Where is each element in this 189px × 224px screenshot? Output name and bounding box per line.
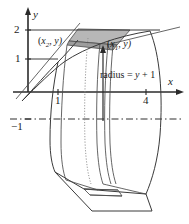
base-outline-lower (55, 172, 152, 211)
solid-of-revolution-figure: y x 2 1 1 4 −1 (x2, y) (x1, y) radius = … (0, 0, 189, 224)
inner-point-label: (x2, y) (38, 36, 62, 49)
outer-point-label: (x1, y) (107, 39, 131, 52)
y-tick-label-2: 2 (14, 24, 20, 35)
solid-outer-left-edge (50, 62, 58, 172)
revolution-axis-label: −1 (11, 121, 23, 132)
shell-wall-d (110, 45, 116, 184)
radius-label: radius = y + 1 (100, 70, 155, 80)
radius-label-suffix: + 1 (140, 69, 156, 80)
shell-wall-b (97, 43, 103, 184)
y-axis-arrowhead (25, 7, 31, 15)
y-tick-label-1: 1 (15, 53, 21, 64)
shell-wall-c (105, 44, 111, 184)
radius-label-prefix: radius = (100, 69, 135, 80)
shell-wall-a (61, 45, 67, 180)
shell-wall-hidden (85, 38, 91, 184)
figure-canvas (0, 0, 189, 224)
outer-point-rest: , y) (118, 38, 131, 49)
inner-point-rest: , y) (49, 35, 62, 46)
solid-outer-right-edge (146, 31, 161, 194)
x-tick-label-1: 1 (55, 95, 61, 106)
y-axis-label: y (33, 9, 38, 20)
x-axis-label: x (168, 76, 173, 87)
x-axis-arrowhead (176, 89, 184, 95)
origin-tangent-stroke (16, 23, 80, 99)
solid-base-group (55, 172, 152, 211)
x-tick-label-4: 4 (143, 95, 149, 106)
